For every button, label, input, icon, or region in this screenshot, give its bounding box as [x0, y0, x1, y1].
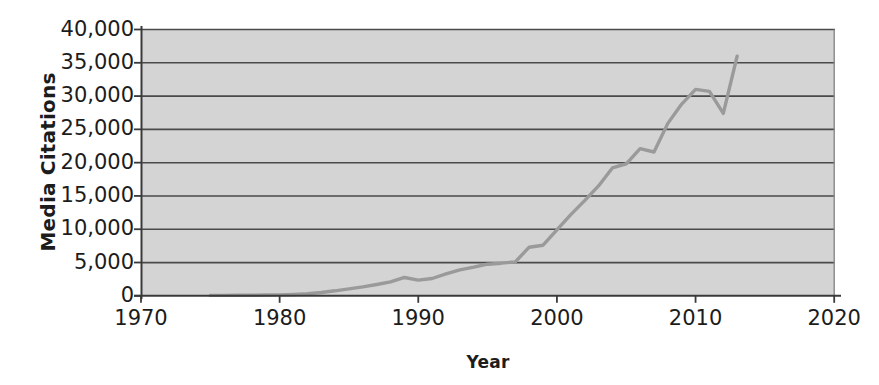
x-axis-tick-labels: 197019801990200020102020 [0, 0, 879, 385]
media-citations-chart: 05,00010,00015,00020,00025,00030,00035,0… [0, 0, 879, 385]
x-tick-label-1990: 1990 [368, 308, 468, 329]
x-tick-label-2020: 2020 [784, 308, 879, 329]
y-axis-title: Media Citations [36, 22, 60, 302]
x-tick-label-1970: 1970 [91, 308, 191, 329]
x-axis-title: Year [141, 352, 835, 372]
x-tick-label-2010: 2010 [646, 308, 746, 329]
x-tick-label-2000: 2000 [507, 308, 607, 329]
x-tick-label-1980: 1980 [230, 308, 330, 329]
